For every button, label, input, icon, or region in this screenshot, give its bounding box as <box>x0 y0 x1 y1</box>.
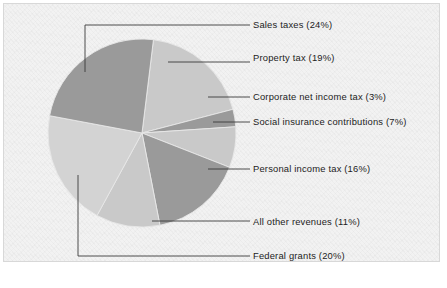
slice-label: Corporate net income tax (3%) <box>253 91 386 102</box>
pie-slices-group <box>48 39 236 227</box>
slice-label: Personal income tax (16%) <box>253 163 370 174</box>
pie-slice <box>50 39 154 133</box>
slice-label: Sales taxes (24%) <box>253 19 332 30</box>
pie-chart-figure: Property tax (19%)Corporate net income t… <box>0 0 447 288</box>
slice-label: Social insurance contributions (7%) <box>253 116 407 127</box>
pie-chart-canvas <box>0 0 447 288</box>
slice-label: All other revenues (11%) <box>253 216 360 227</box>
slice-label: Property tax (19%) <box>253 52 335 63</box>
slice-label: Federal grants (20%) <box>253 250 345 261</box>
